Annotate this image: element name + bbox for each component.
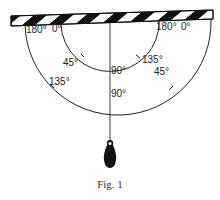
outer-left-135-label: 135° (49, 76, 70, 87)
inner-left-45-label: 45° (63, 57, 78, 68)
figure-caption: Fig. 1 (97, 178, 123, 190)
pendulum-diagram: 180° 0° 135° 90° 45° 180° 0° 45° 90° 135… (0, 0, 220, 200)
inner-right-135-label: 135° (142, 54, 163, 65)
pendulum-bob (104, 140, 116, 168)
outer-bottom-90-label: 90° (111, 88, 126, 99)
outer-right-180-label: 180° (156, 21, 177, 32)
outer-left-0-label: 0° (52, 23, 62, 34)
inner-bottom-90-label: 90° (111, 65, 126, 76)
outer-left-180-label: 180° (26, 24, 47, 35)
outer-right-45-label: 45° (154, 66, 169, 77)
outer-right-0-label: 0° (181, 21, 191, 32)
